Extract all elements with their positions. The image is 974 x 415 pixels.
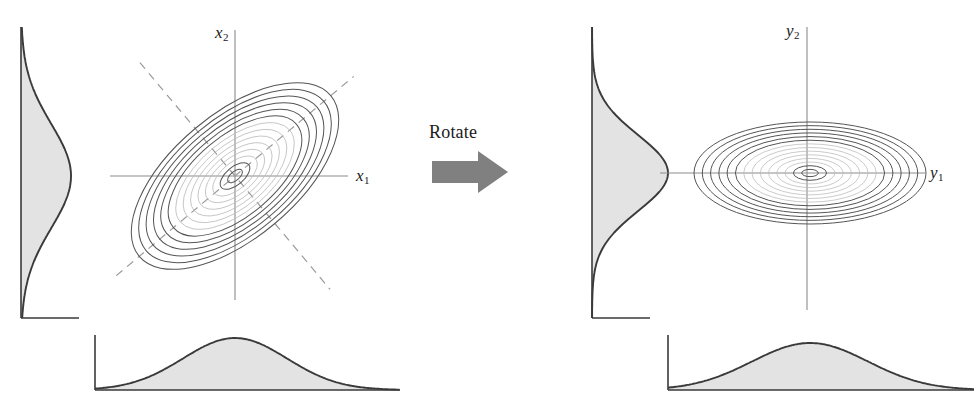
right-x-axis-label: y1 [930,164,944,183]
right-marginal-vertical [592,27,668,318]
right-axes-cross [660,27,925,310]
right-marginal-horizontal [668,335,974,390]
rotation-figure: x2 x1 Rotate y2 y1 [0,0,974,415]
right-y-axis-label: y2 [786,22,800,41]
right-panel-graphics [0,0,974,415]
